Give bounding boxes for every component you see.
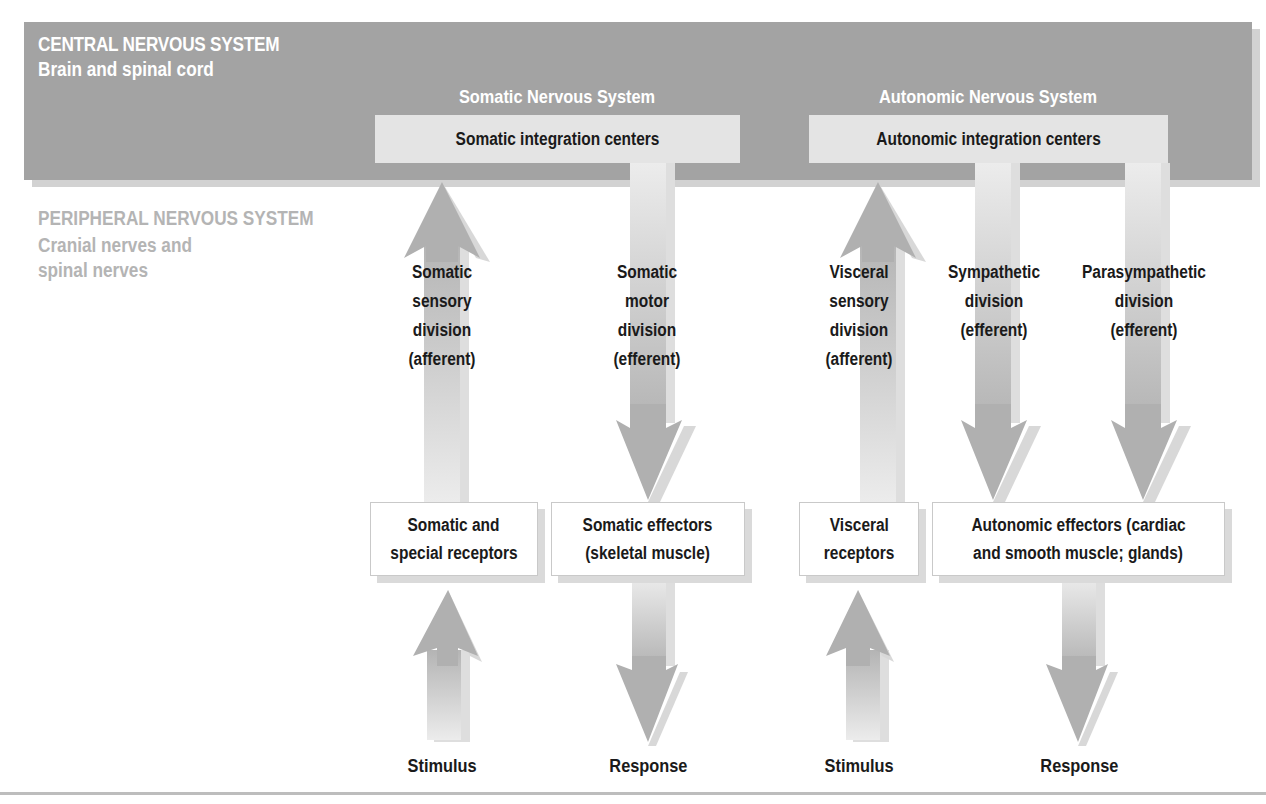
visceral-receptors-box: Visceral receptors — [799, 502, 919, 576]
pns-subtitle-line: Cranial nerves and — [38, 233, 192, 258]
somatic-integration-centers: Somatic integration centers — [375, 115, 740, 163]
label-line: division — [578, 316, 716, 345]
response-text: Response — [609, 755, 687, 777]
sympathetic-division-label: Sympathetic division (efferent) — [914, 258, 1074, 345]
label-line: division — [373, 316, 511, 345]
label-line: (afferent) — [790, 345, 928, 374]
label-line: Sympathetic — [925, 258, 1063, 287]
pns-subtitle-line: spinal nerves — [38, 258, 192, 283]
label-line: sensory — [373, 287, 511, 316]
stimulus-arrow-icon — [826, 590, 894, 742]
label-line: (efferent) — [578, 345, 716, 374]
somatic-special-receptors-box: Somatic and special receptors — [370, 502, 538, 576]
box-line: Autonomic effectors (cardiac — [971, 511, 1185, 539]
box-line: and smooth muscle; glands) — [974, 539, 1184, 567]
autonomic-integration-label: Autonomic integration centers — [876, 129, 1100, 150]
label-line: division — [1075, 287, 1213, 316]
box-line: receptors — [824, 539, 895, 567]
label-line: motor — [578, 287, 716, 316]
pns-title: PERIPHERAL NERVOUS SYSTEM — [38, 207, 314, 230]
response-label: Response — [578, 755, 718, 777]
label-line: (efferent) — [925, 316, 1063, 345]
box-line: Visceral — [829, 511, 888, 539]
label-line: division — [925, 287, 1063, 316]
somatic-sensory-division-label: Somatic sensory division (afferent) — [362, 258, 522, 374]
parasympathetic-division-label: Parasympathetic division (efferent) — [1064, 258, 1224, 345]
response-text: Response — [1040, 755, 1118, 777]
box-line: Somatic effectors — [583, 511, 713, 539]
autonomic-integration-centers: Autonomic integration centers — [809, 115, 1168, 163]
label-line: Parasympathetic — [1075, 258, 1213, 287]
label-line: sensory — [790, 287, 928, 316]
label-line: (afferent) — [373, 345, 511, 374]
somatic-effectors-box: Somatic effectors (skeletal muscle) — [551, 502, 745, 576]
stimulus-label: Stimulus — [372, 755, 512, 777]
response-label: Response — [1009, 755, 1149, 777]
response-arrow-icon — [616, 576, 688, 746]
pns-subtitle: Cranial nerves and spinal nerves — [38, 233, 192, 283]
box-line: (skeletal muscle) — [586, 539, 711, 567]
label-line: (efferent) — [1075, 316, 1213, 345]
stimulus-label: Stimulus — [789, 755, 929, 777]
stimulus-text: Stimulus — [407, 755, 476, 777]
autonomic-effectors-box: Autonomic effectors (cardiac and smooth … — [932, 502, 1225, 576]
stimulus-arrow-icon — [413, 590, 482, 742]
label-line: Somatic — [578, 258, 716, 287]
bottom-divider — [0, 792, 1266, 795]
box-line: special receptors — [390, 539, 517, 567]
stimulus-text: Stimulus — [824, 755, 893, 777]
somatic-integration-label: Somatic integration centers — [456, 129, 660, 150]
label-line: division — [790, 316, 928, 345]
label-line: Somatic — [373, 258, 511, 287]
label-line: Visceral — [790, 258, 928, 287]
box-line: Somatic and — [408, 511, 500, 539]
somatic-motor-division-label: Somatic motor division (efferent) — [567, 258, 727, 374]
response-arrow-icon — [1046, 576, 1118, 746]
